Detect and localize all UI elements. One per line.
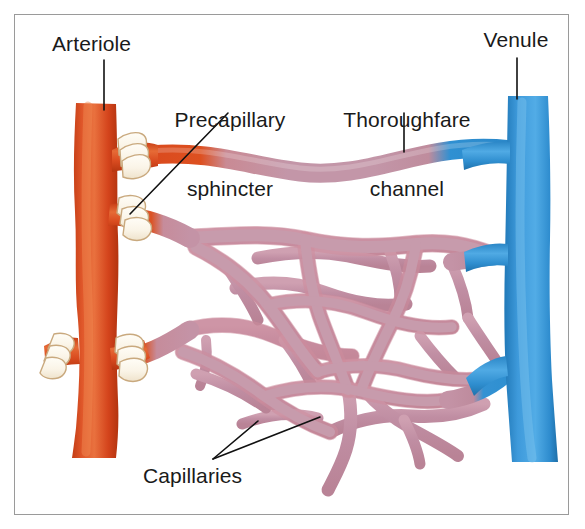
label-thoroughfare-channel: Thoroughfare channel	[333, 62, 481, 246]
arteriole-trunk-highlight	[86, 106, 89, 452]
precapillary-sphincter-middle	[117, 196, 151, 241]
label-precapillary-sphincter: Precapillary sphincter	[160, 62, 300, 246]
precapillary-sphincter-lower	[115, 334, 147, 381]
arteriole-trunk	[72, 103, 118, 458]
label-venule: Venule	[462, 28, 570, 51]
venule-trunk	[504, 96, 558, 462]
precapillary-sphincter-upper	[118, 133, 151, 179]
leader-capillaries-line-a	[213, 421, 258, 459]
label-thoroughfare-channel-line2: channel	[333, 177, 481, 200]
leader-capillaries-line-b	[213, 417, 320, 459]
label-precapillary-sphincter-line1: Precapillary	[160, 108, 300, 131]
label-capillaries: Capillaries	[143, 464, 242, 487]
label-arteriole: Arteriole	[52, 32, 131, 55]
label-precapillary-sphincter-line2: sphincter	[160, 177, 300, 200]
label-thoroughfare-channel-line1: Thoroughfare	[333, 108, 481, 131]
capillary-bed-figure: Arteriole Precapillary sphincter Thoroug…	[0, 0, 585, 529]
